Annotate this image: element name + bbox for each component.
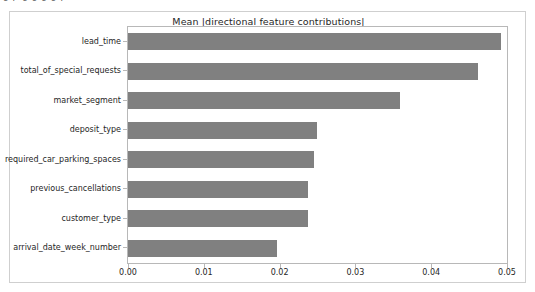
ytick-label-required_car_parking_spaces: required_car_parking_spaces (0, 154, 121, 163)
xtick-mark (280, 264, 281, 268)
bar-customer_type (128, 210, 507, 227)
bar-previous_cancellations (128, 181, 507, 198)
ytick-label-arrival_date_week_number: arrival_date_week_number (0, 243, 121, 252)
ytick-mark (123, 159, 127, 160)
cut-off-content-sliver: ig p g g g g p (0, 0, 535, 9)
plot-axes (127, 26, 508, 264)
xtick-label-0.01: 0.01 (195, 268, 213, 277)
bar-rect (128, 92, 400, 109)
matplotlib-figure: Mean |directional feature contributions|… (9, 11, 526, 283)
bar-rect (128, 151, 314, 168)
ytick-label-customer_type: customer_type (0, 213, 121, 222)
xtick-mark (431, 264, 432, 268)
bar-market_segment (128, 92, 507, 109)
xtick-label-0.05: 0.05 (498, 268, 516, 277)
bar-rect (128, 33, 501, 50)
ytick-label-previous_cancellations: previous_cancellations (0, 184, 121, 193)
ytick-label-deposit_type: deposit_type (0, 125, 121, 134)
bar-required_car_parking_spaces (128, 151, 507, 168)
bar-rect (128, 210, 308, 227)
ytick-label-total_of_special_requests: total_of_special_requests (0, 66, 121, 75)
bar-rect (128, 63, 478, 80)
cut-off-glyphs: ig p g g g g p (0, 0, 535, 1)
xtick-label-0.02: 0.02 (271, 268, 289, 277)
bar-total_of_special_requests (128, 63, 507, 80)
xtick-mark (507, 264, 508, 268)
bar-rect (128, 240, 277, 257)
ytick-label-lead_time: lead_time (0, 36, 121, 45)
ytick-mark (123, 247, 127, 248)
xtick-label-0.00: 0.00 (119, 268, 137, 277)
bar-lead_time (128, 33, 507, 50)
xtick-label-0.04: 0.04 (422, 268, 440, 277)
ytick-mark (123, 41, 127, 42)
xtick-mark (128, 264, 129, 268)
xtick-mark (204, 264, 205, 268)
bar-rect (128, 181, 308, 198)
ytick-label-market_segment: market_segment (0, 95, 121, 104)
ytick-mark (123, 218, 127, 219)
bar-arrival_date_week_number (128, 240, 507, 257)
ytick-mark (123, 129, 127, 130)
xtick-mark (355, 264, 356, 268)
xtick-label-0.03: 0.03 (346, 268, 364, 277)
ytick-mark (123, 100, 127, 101)
bars-container (128, 27, 507, 263)
ytick-mark (123, 70, 127, 71)
ytick-mark (123, 188, 127, 189)
bar-rect (128, 122, 317, 139)
bar-deposit_type (128, 122, 507, 139)
